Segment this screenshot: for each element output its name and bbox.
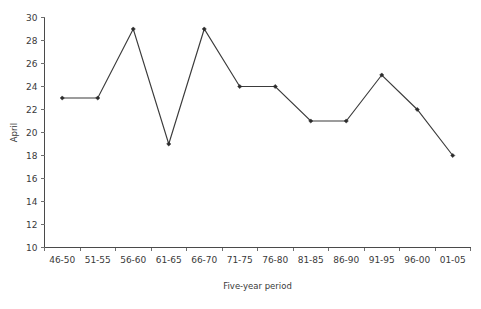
y-axis-tick-label: 24 bbox=[26, 82, 38, 92]
x-axis-tick-label: 46-50 bbox=[49, 255, 75, 265]
data-point-marker bbox=[167, 142, 171, 146]
x-axis-tick-label: 91-95 bbox=[369, 255, 395, 265]
x-axis-tick-label: 01-05 bbox=[440, 255, 466, 265]
x-axis-title: Five-year period bbox=[223, 281, 292, 291]
x-axis-tick-label: 71-75 bbox=[227, 255, 253, 265]
y-axis-tick-label: 14 bbox=[26, 197, 38, 207]
y-axis-tick-label: 16 bbox=[26, 174, 38, 184]
data-point-marker bbox=[96, 96, 100, 100]
x-axis-tick-label: 86-90 bbox=[333, 255, 359, 265]
x-axis-tick-label: 56-60 bbox=[120, 255, 146, 265]
x-axis-tick-label: 51-55 bbox=[85, 255, 111, 265]
y-axis-tick-label: 26 bbox=[26, 59, 38, 69]
x-axis-tick-label: 76-80 bbox=[262, 255, 288, 265]
y-axis-tick-label: 28 bbox=[26, 36, 38, 46]
x-axis-tick-label: 66-70 bbox=[191, 255, 217, 265]
x-axis-tick-label: 96-00 bbox=[404, 255, 430, 265]
series-line-april bbox=[62, 29, 453, 156]
y-axis-tick-label: 20 bbox=[26, 128, 38, 138]
y-axis-tick-label: 18 bbox=[26, 151, 38, 161]
y-axis-tick-label: 12 bbox=[26, 220, 37, 230]
x-axis-tick-label: 81-85 bbox=[298, 255, 324, 265]
chart-canvas: 101214161820222426283046-5051-5556-6061-… bbox=[0, 0, 481, 309]
data-point-marker bbox=[60, 96, 64, 100]
y-axis-title: April bbox=[9, 123, 19, 142]
line-chart: 101214161820222426283046-5051-5556-6061-… bbox=[0, 0, 481, 309]
y-axis-tick-label: 30 bbox=[26, 13, 38, 23]
data-point-marker bbox=[131, 27, 135, 31]
y-axis-tick-label: 10 bbox=[26, 243, 38, 253]
y-axis-tick-label: 22 bbox=[26, 105, 37, 115]
x-axis-tick-label: 61-65 bbox=[156, 255, 182, 265]
